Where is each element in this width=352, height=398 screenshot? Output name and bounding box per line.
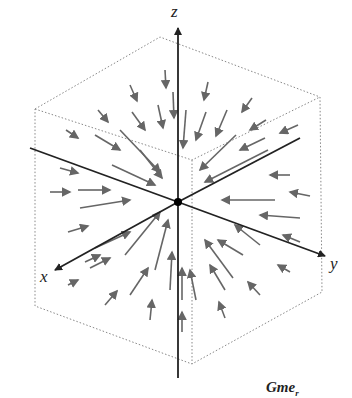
x-axis-neg — [30, 148, 178, 202]
formula-subscript: r — [295, 388, 299, 398]
formula-fragment: Gmer — [266, 379, 299, 398]
x-axis — [55, 202, 178, 270]
y-axis-label: y — [330, 254, 338, 274]
z-axis-label: z — [171, 2, 178, 22]
y-axis-neg — [178, 138, 300, 202]
x-axis-label: x — [40, 267, 48, 287]
y-axis — [178, 202, 325, 256]
origin-mass-point — [174, 198, 182, 206]
formula-main: Gme — [266, 379, 295, 395]
